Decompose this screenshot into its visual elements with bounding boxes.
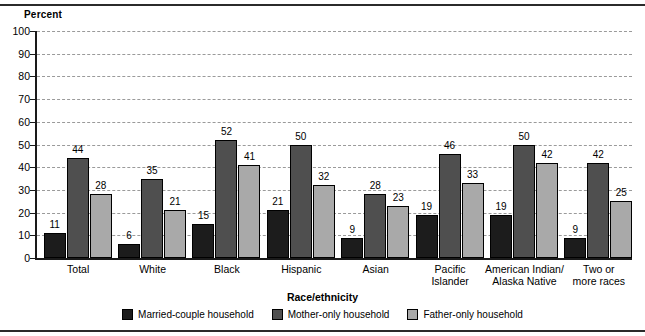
legend-label: Married-couple household	[138, 309, 254, 320]
bar[interactable]	[587, 163, 609, 258]
x-axis-line	[35, 258, 632, 260]
bar[interactable]	[341, 238, 363, 258]
bar-value-label: 21	[160, 197, 190, 207]
bar-value-label: 28	[360, 181, 390, 191]
bar-value-label: 52	[211, 127, 241, 137]
y-axis-tick	[30, 54, 36, 55]
bar[interactable]	[513, 145, 535, 259]
y-axis-tick-label: 50	[1, 140, 30, 151]
bar[interactable]	[164, 210, 186, 258]
bar[interactable]	[267, 210, 289, 258]
y-axis-tick-label: 20	[1, 208, 30, 219]
bar-group: 215032	[267, 31, 336, 258]
bar[interactable]	[44, 233, 66, 258]
bar-value-label: 19	[412, 202, 442, 212]
bar-group: 63521	[118, 31, 187, 258]
chart-legend: Married-couple householdMother-only hous…	[0, 309, 645, 320]
bar-value-label: 6	[114, 231, 144, 241]
bar-group: 195042	[490, 31, 559, 258]
bar-value-label: 9	[560, 225, 590, 235]
plot-area: 0102030405060708090100 11442863521155241…	[37, 31, 632, 258]
y-axis-tick-label: 100	[1, 26, 30, 37]
y-axis-tick	[30, 258, 36, 259]
y-axis-tick-label: 40	[1, 162, 30, 173]
legend-swatch-icon	[407, 309, 418, 320]
bottom-rule	[0, 330, 645, 332]
bar-group: 155241	[192, 31, 261, 258]
bar[interactable]	[364, 194, 386, 258]
bar[interactable]	[416, 215, 438, 258]
legend-item[interactable]: Father-only household	[407, 309, 523, 320]
bar-value-label: 21	[263, 197, 293, 207]
bar-value-label: 42	[532, 150, 562, 160]
bar[interactable]	[387, 206, 409, 258]
x-axis-title: Race/ethnicity	[0, 291, 645, 303]
y-axis-tick	[30, 190, 36, 191]
y-axis-tick	[30, 99, 36, 100]
bar-value-label: 11	[40, 220, 70, 230]
bar[interactable]	[141, 179, 163, 258]
legend-item[interactable]: Married-couple household	[122, 309, 254, 320]
bar[interactable]	[192, 224, 214, 258]
y-axis-tick	[30, 31, 36, 32]
y-axis-tick-label: 70	[1, 94, 30, 105]
legend-swatch-icon	[122, 309, 133, 320]
bar[interactable]	[238, 165, 260, 258]
y-axis-tick	[30, 122, 36, 123]
y-axis-title: Percent	[24, 9, 62, 20]
bar[interactable]	[564, 238, 586, 258]
bar[interactable]	[313, 185, 335, 258]
y-axis-tick-label: 90	[1, 49, 30, 60]
bar-value-label: 32	[309, 172, 339, 182]
bar[interactable]	[610, 201, 632, 258]
bar[interactable]	[290, 145, 312, 259]
legend-label: Mother-only household	[288, 309, 390, 320]
y-axis-tick-label: 60	[1, 117, 30, 128]
bar-group: 194633	[416, 31, 485, 258]
legend-swatch-icon	[272, 309, 283, 320]
y-axis-tick-label: 10	[1, 230, 30, 241]
bar-group: 114428	[44, 31, 113, 258]
bar-group: 92823	[341, 31, 410, 258]
bar-value-label: 9	[337, 225, 367, 235]
bar[interactable]	[67, 158, 89, 258]
x-axis-category-line: more races	[544, 275, 645, 287]
y-axis-tick-label: 0	[1, 253, 30, 264]
bar-value-label: 33	[458, 170, 488, 180]
bar-group: 94225	[564, 31, 633, 258]
bar[interactable]	[90, 194, 112, 258]
x-axis-category-line: Two or	[544, 263, 645, 275]
bar-value-label: 23	[383, 193, 413, 203]
y-axis-tick-label: 80	[1, 71, 30, 82]
bar-value-label: 28	[86, 181, 116, 191]
bar-value-label: 35	[137, 166, 167, 176]
bar-value-label: 44	[63, 145, 93, 155]
bar[interactable]	[490, 215, 512, 258]
bar[interactable]	[536, 163, 558, 258]
x-axis-category-label: Two ormore races	[544, 263, 645, 287]
y-axis-tick	[30, 167, 36, 168]
y-axis-tick	[30, 213, 36, 214]
bar-value-label: 50	[509, 132, 539, 142]
bar[interactable]	[462, 183, 484, 258]
y-axis-tick	[30, 235, 36, 236]
bar-value-label: 25	[606, 188, 636, 198]
legend-item[interactable]: Mother-only household	[272, 309, 390, 320]
y-axis-tick	[30, 76, 36, 77]
y-axis-tick-label: 30	[1, 185, 30, 196]
bar-value-label: 41	[234, 152, 264, 162]
legend-label: Father-only household	[423, 309, 523, 320]
bar-value-label: 46	[435, 141, 465, 151]
y-axis-tick	[30, 145, 36, 146]
bar-value-label: 50	[286, 132, 316, 142]
bar-value-label: 19	[486, 202, 516, 212]
top-rule	[0, 4, 645, 6]
bar-value-label: 42	[583, 150, 613, 160]
bar[interactable]	[118, 244, 140, 258]
bar-value-label: 15	[188, 211, 218, 221]
